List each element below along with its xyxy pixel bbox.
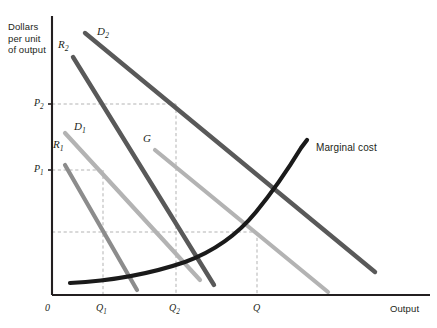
x-axis-title: Output <box>390 303 419 315</box>
curve-label-g: G <box>143 132 151 144</box>
d2-subscript: 2 <box>105 31 109 40</box>
x-tick-label-q2: Q2 <box>169 302 180 316</box>
curve-label-d1: D1 <box>74 120 86 135</box>
curve-g <box>155 150 328 292</box>
r1-subscript: 1 <box>60 144 64 153</box>
d1-subscript: 1 <box>82 126 86 135</box>
r1-base: R <box>53 138 60 150</box>
p2-subscript: 2 <box>40 103 44 111</box>
curve-label-marginal-cost: Marginal cost <box>316 142 377 153</box>
curve-label-r1: R1 <box>53 138 64 153</box>
d2-base: D <box>97 25 105 37</box>
curve-r1 <box>65 165 137 290</box>
x-tick-label-q1: Q1 <box>96 302 107 316</box>
curve-r2 <box>73 57 214 285</box>
d1-base: D <box>74 120 82 132</box>
curve-marginal-cost <box>70 140 307 283</box>
y-tick-label-p1: P1 <box>34 163 44 177</box>
economics-chart-figure: Dollars per unit of output Output P2 P1 … <box>0 0 437 328</box>
y-axis-title: Dollars per unit of output <box>8 21 54 56</box>
r2-subscript: 2 <box>65 44 69 53</box>
y-tick-label-p2: P2 <box>34 97 44 111</box>
p1-subscript: 1 <box>40 169 44 177</box>
r2-base: R <box>58 38 65 50</box>
q2-subscript: 2 <box>176 308 180 316</box>
x-tick-label-q: Q <box>253 302 260 313</box>
curve-label-r2: R2 <box>58 38 69 53</box>
q1-subscript: 1 <box>103 308 107 316</box>
curve-label-d2: D2 <box>97 25 109 40</box>
x-tick-label-origin: 0 <box>45 302 50 313</box>
